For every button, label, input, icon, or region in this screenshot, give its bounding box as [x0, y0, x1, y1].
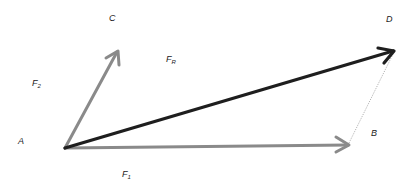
vector-fr: [65, 48, 394, 148]
point-label-b: B: [371, 129, 377, 138]
point-label-a: A: [18, 137, 24, 146]
f1-subscript: 1: [128, 174, 131, 180]
vector-label-fr: FR: [166, 55, 176, 65]
f2-subscript: 2: [38, 83, 41, 89]
vector-label-f2: F2: [32, 79, 41, 89]
point-label-d: D: [386, 15, 393, 24]
point-label-c: C: [109, 14, 116, 23]
force-diagram: C D FR F2 A B F1: [0, 0, 412, 187]
fr-subscript: R: [172, 59, 176, 65]
vector-f1: [65, 137, 349, 152]
vector-label-f1: F1: [122, 170, 131, 180]
vector-drawing: [0, 0, 412, 187]
